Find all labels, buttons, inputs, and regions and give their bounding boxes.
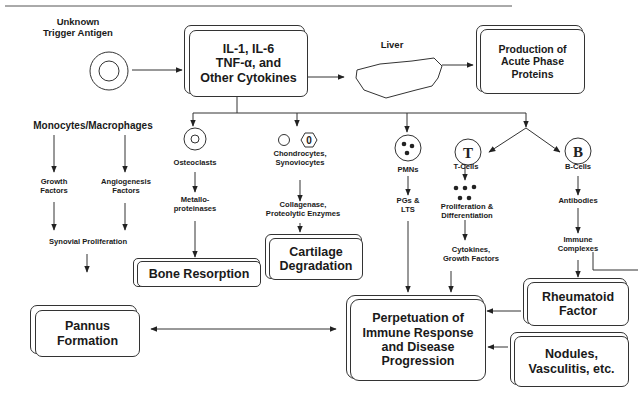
immune-complexes-label: Immune Complexes: [550, 236, 606, 253]
angiogenesis-factors-label: Angiogenesis Factors: [88, 178, 164, 195]
antibodies-label: Antibodies: [550, 197, 606, 206]
metalloproteinases-label: Metallo- proteinases: [165, 196, 225, 213]
chondrocyte-icon: 0: [275, 130, 325, 150]
cartilage-degradation-box: Cartilage Degradation: [265, 234, 363, 280]
cytokines-growth-factors-label: Cytokines, Growth Factors: [436, 246, 506, 263]
antigen-icon: [86, 50, 132, 92]
acute-phase-proteins-box: Production of Acute Phase Proteins: [476, 25, 586, 95]
pgs-lts-label: PGs & LTS: [388, 197, 428, 214]
osteoclasts-label: Osteoclasts: [165, 159, 225, 168]
t-cells-label: T-Cells: [444, 163, 488, 172]
perpetuation-box: Perpetuation of Immune Response and Dise…: [346, 295, 486, 381]
rheumatoid-factor-box: Rheumatoid Factor: [523, 278, 629, 326]
monocytes-macrophages-label: Monocytes/Macrophages: [18, 120, 168, 132]
nodules-vasculitis-box: Nodules, Vasculitis, etc.: [510, 332, 629, 387]
svg-text:B: B: [573, 144, 583, 160]
collagenase-label: Collagenase, Proteolytic Enzymes: [262, 201, 344, 218]
bone-resorption-box: Bone Resorption: [133, 258, 261, 288]
svg-text:T: T: [463, 145, 473, 161]
pmn-icon: [393, 133, 423, 163]
trigger-antigen-label: Unknown Trigger Antigen: [28, 17, 128, 39]
synovial-proliferation-label: Synovial Proliferation: [30, 238, 146, 247]
chondrocytes-synoviocytes-label: Chondrocytes, Synoviocytes: [262, 150, 338, 167]
svg-text:0: 0: [306, 135, 312, 146]
osteoclast-icon: [182, 126, 208, 152]
growth-factors-label: Growth Factors: [28, 178, 80, 195]
liver-label: Liver: [367, 40, 417, 51]
proliferation-differentiation-label: Proliferation & Differentiation: [432, 203, 502, 220]
pmns-label: PMNs: [388, 166, 428, 175]
cytokines-box: IL-1, IL-6 TNF-α, and Other Cytokines: [184, 25, 308, 97]
liver-icon: [354, 56, 446, 102]
pannus-formation-box: Pannus Formation: [30, 305, 140, 357]
b-cells-label: B-Cells: [556, 163, 600, 172]
